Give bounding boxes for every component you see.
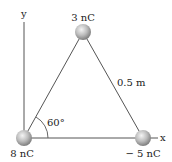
charge-right-label: − 5 nC [125,148,161,159]
side-length-label: 0.5 m [117,77,146,88]
y-axis-label: y [20,8,27,19]
charge-right-sphere [135,130,151,146]
charge-origin-sphere [16,130,32,146]
x-axis-label: x [160,132,166,143]
angle-label: 60° [47,117,65,128]
charge-top-sphere [75,24,91,40]
charge-top-label: 3 nC [71,12,95,23]
charge-origin-label: 8 nC [10,148,34,159]
triangle-charge-diagram: y x 60° 0.5 m 3 nC 8 nC − 5 nC [0,0,172,162]
